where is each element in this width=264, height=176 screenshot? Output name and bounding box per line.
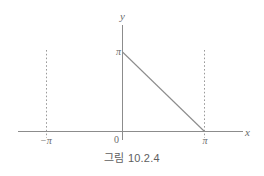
figure-caption: 그림 10.2.4 bbox=[0, 152, 264, 165]
x-tick-label-neg-pi: −π bbox=[36, 136, 56, 146]
origin-label: 0 bbox=[105, 135, 119, 145]
y-axis-label: y bbox=[120, 11, 125, 22]
figure-container: y x π 0 −π π 그림 10.2.4 bbox=[0, 0, 264, 176]
x-tick-label-pi: π bbox=[196, 136, 214, 146]
x-axis-label: x bbox=[245, 127, 250, 138]
y-tick-label-pi: π bbox=[107, 47, 121, 57]
plot-area bbox=[0, 0, 264, 176]
function-segment bbox=[123, 52, 205, 132]
